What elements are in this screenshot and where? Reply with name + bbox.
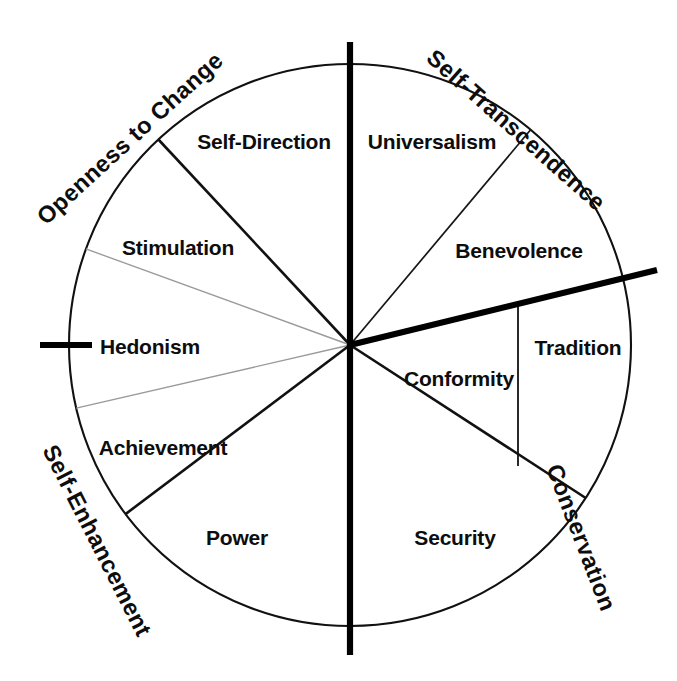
wedge-label-stimulation: Stimulation (122, 236, 234, 259)
wedge-label-conformity: Conformity (404, 367, 515, 390)
thick-radial-line (350, 270, 657, 345)
wedge-label-security: Security (414, 526, 496, 549)
dimension-label-self-enhancement: Self-Enhancement (38, 440, 157, 640)
values-circle-diagram: Self-Direction Stimulation Hedonism Achi… (0, 0, 677, 681)
wedge-label-benevolence: Benevolence (455, 239, 582, 262)
wedge-label-power: Power (206, 526, 268, 549)
wedge-label-self-direction: Self-Direction (197, 130, 331, 153)
spoke-universalism-benevolence (350, 130, 531, 345)
wedge-label-achievement: Achievement (99, 436, 228, 459)
wedge-label-hedonism: Hedonism (100, 335, 200, 358)
wedge-label-tradition: Tradition (535, 336, 622, 359)
schwartz-values-svg: Self-Direction Stimulation Hedonism Achi… (0, 0, 677, 681)
spoke-stimulation-hedonism (86, 249, 350, 345)
wedge-label-universalism: Universalism (368, 130, 496, 153)
